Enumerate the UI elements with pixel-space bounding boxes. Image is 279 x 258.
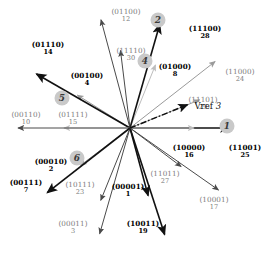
vector-arrow [36,74,130,128]
space-vector-diagram: (11001)25(10000)16(11101)29(11000)24(010… [0,0,279,258]
vector-canvas [0,0,279,258]
vref-label-text: Vref [194,101,212,111]
vector-arrow [100,128,130,234]
vector-arrow [130,128,165,235]
vector-arrow [47,128,130,193]
vector-arrow [130,24,160,128]
vector-arrow [101,20,130,128]
vector-arrow [130,62,215,128]
vector-arrows [18,20,230,235]
vector-arrow [130,128,218,190]
vref-sector-number: 3 [216,101,221,111]
vector-arrow [120,51,130,128]
vref-label: Vref3 [194,101,221,111]
